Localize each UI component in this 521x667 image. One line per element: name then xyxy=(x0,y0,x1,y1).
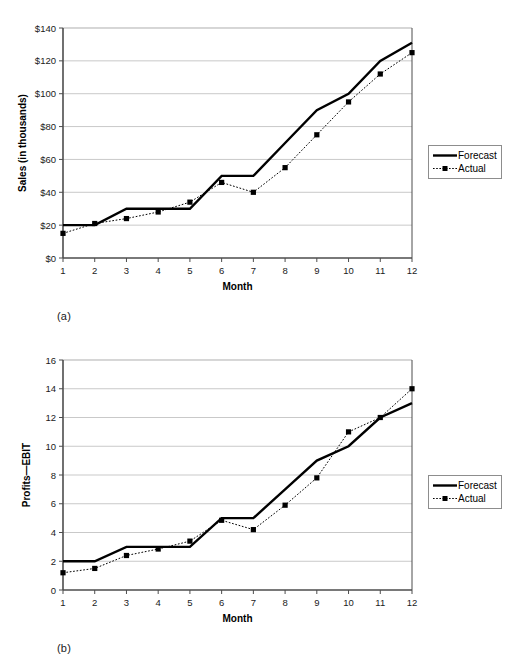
x-axis-tick-label: 2 xyxy=(92,265,97,276)
data-point-marker xyxy=(187,200,192,205)
data-point-marker xyxy=(378,71,383,76)
y-axis-tick-label: 0 xyxy=(51,585,56,596)
y-axis-tick-label: 2 xyxy=(51,556,56,567)
x-axis-tick-label: 12 xyxy=(407,265,418,276)
legend-label-forecast: Forecast xyxy=(458,150,497,161)
y-axis-tick-label: $140 xyxy=(35,23,56,34)
y-axis-tick-label: $0 xyxy=(45,253,56,264)
legend-profits: Forecast Actual xyxy=(428,475,502,509)
x-axis-tick-label: 9 xyxy=(314,265,319,276)
series-line-forecast xyxy=(63,43,412,225)
data-point-marker xyxy=(314,132,319,137)
data-point-marker xyxy=(378,415,383,420)
y-axis-tick-label: 12 xyxy=(45,412,56,423)
figure-a: $0$20$40$60$80$100$120$14012345678910111… xyxy=(0,0,521,340)
x-axis-tick-label: 11 xyxy=(375,265,385,276)
x-axis-tick-label: 6 xyxy=(219,265,224,276)
data-point-marker xyxy=(409,50,414,55)
x-axis-tick-label: 3 xyxy=(124,265,129,276)
legend-item-actual: Actual xyxy=(432,492,496,505)
x-axis-title: Month xyxy=(223,281,253,292)
data-point-marker xyxy=(282,165,287,170)
data-point-marker xyxy=(92,566,97,571)
y-axis-title: Profits—EBIT xyxy=(21,443,32,507)
legend-item-forecast: Forecast xyxy=(432,149,496,162)
legend-label-forecast: Forecast xyxy=(458,480,497,491)
y-axis-tick-label: 10 xyxy=(45,441,56,452)
data-point-marker xyxy=(92,221,97,226)
x-axis-title: Month xyxy=(223,613,253,624)
legend-dotted-line-square-icon xyxy=(432,493,458,504)
x-axis-tick-label: 7 xyxy=(251,265,256,276)
legend-solid-line-icon xyxy=(432,480,458,491)
y-axis-tick-label: $120 xyxy=(35,55,56,66)
data-point-marker xyxy=(282,503,287,508)
legend-solid-line-icon xyxy=(432,150,458,161)
legend-label-actual: Actual xyxy=(458,163,486,174)
legend-item-actual: Actual xyxy=(432,162,496,175)
x-axis-tick-label: 10 xyxy=(343,597,354,608)
data-point-marker xyxy=(346,99,351,104)
data-point-marker xyxy=(60,570,65,575)
y-axis-tick-label: $60 xyxy=(40,154,56,165)
x-axis-tick-label: 11 xyxy=(375,597,385,608)
y-axis-tick-label: $20 xyxy=(40,220,56,231)
y-axis-tick-label: $100 xyxy=(35,88,56,99)
x-axis-tick-label: 8 xyxy=(282,265,287,276)
data-point-marker xyxy=(156,209,161,214)
x-axis-tick-label: 12 xyxy=(407,597,418,608)
series-line-actual xyxy=(63,389,412,573)
data-point-marker xyxy=(314,475,319,480)
series-line-actual xyxy=(63,53,412,234)
x-axis-tick-label: 1 xyxy=(60,265,65,276)
legend-sales: Forecast Actual xyxy=(428,145,502,179)
data-point-marker xyxy=(409,386,414,391)
x-axis-tick-label: 4 xyxy=(156,597,161,608)
figure-b: 0246810121416123456789101112MonthProfits… xyxy=(0,337,521,667)
y-axis-tick-label: $80 xyxy=(40,121,56,132)
legend-item-forecast: Forecast xyxy=(432,479,496,492)
y-axis-tick-label: 16 xyxy=(45,355,56,366)
data-point-marker xyxy=(60,231,65,236)
data-point-marker xyxy=(156,546,161,551)
panel-label-b: (b) xyxy=(57,642,71,654)
data-point-marker xyxy=(219,180,224,185)
x-axis-tick-label: 7 xyxy=(251,597,256,608)
x-axis-tick-label: 10 xyxy=(343,265,354,276)
x-axis-tick-label: 8 xyxy=(282,597,287,608)
y-axis-title: Sales (in thousands) xyxy=(17,94,28,192)
series-line-forecast xyxy=(63,403,412,561)
data-point-marker xyxy=(346,429,351,434)
data-point-marker xyxy=(124,216,129,221)
y-axis-tick-label: 4 xyxy=(51,527,56,538)
x-axis-tick-label: 6 xyxy=(219,597,224,608)
legend-label-actual: Actual xyxy=(458,493,486,504)
y-axis-tick-label: 14 xyxy=(45,383,56,394)
data-point-marker xyxy=(251,190,256,195)
x-axis-tick-label: 2 xyxy=(92,597,97,608)
data-point-marker xyxy=(251,527,256,532)
x-axis-tick-label: 5 xyxy=(187,265,192,276)
x-axis-tick-label: 3 xyxy=(124,597,129,608)
data-point-marker xyxy=(187,539,192,544)
y-axis-tick-label: 6 xyxy=(51,498,56,509)
data-point-marker xyxy=(124,553,129,558)
y-axis-tick-label: 8 xyxy=(51,470,56,481)
panel-label-a: (a) xyxy=(57,310,71,322)
data-point-marker xyxy=(219,518,224,523)
x-axis-tick-label: 5 xyxy=(187,597,192,608)
x-axis-tick-label: 9 xyxy=(314,597,319,608)
legend-dotted-line-square-icon xyxy=(432,163,458,174)
x-axis-tick-label: 4 xyxy=(156,265,161,276)
x-axis-tick-label: 1 xyxy=(60,597,65,608)
y-axis-tick-label: $40 xyxy=(40,187,56,198)
